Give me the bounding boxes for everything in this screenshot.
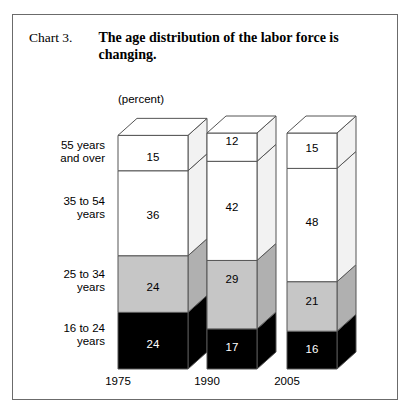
value-1975-16: 24 <box>147 338 160 350</box>
value-1975-35: 36 <box>147 209 160 221</box>
chart-frame: Chart 3. The age distribution of the lab… <box>12 14 398 400</box>
value-2005-25: 21 <box>306 295 319 307</box>
value-1990-55: 12 <box>226 135 239 147</box>
value-1975-55: 15 <box>147 151 160 163</box>
value-1990-25: 29 <box>226 273 239 285</box>
value-2005-16: 16 <box>306 343 319 355</box>
value-1990-35: 42 <box>226 201 239 213</box>
value-1975-25: 24 <box>147 281 160 293</box>
value-2005-35: 48 <box>306 216 319 228</box>
value-2005-55: 15 <box>306 142 319 154</box>
stacked-bar-chart: 15 36 24 24 12 42 29 17 15 48 21 16 <box>13 15 399 401</box>
value-1990-16: 17 <box>226 341 239 353</box>
